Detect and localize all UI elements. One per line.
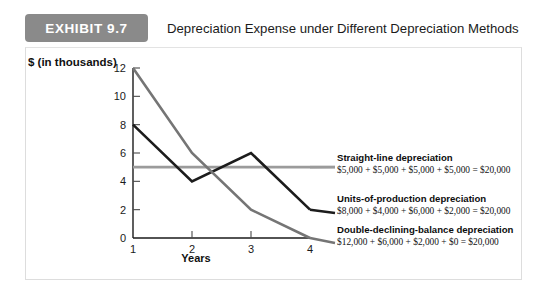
exhibit-badge: EXHIBIT 9.7 bbox=[25, 14, 148, 42]
legend-formula-double-declining-balance: $12,000 + $6,000 + $2,000 + $0 = $20,000 bbox=[337, 236, 537, 248]
x-tick-label: 1 bbox=[130, 243, 136, 255]
legend-item-straight-line: Straight-line depreciation $5,000 + $5,0… bbox=[337, 152, 537, 176]
y-tick-label: 2 bbox=[120, 204, 126, 216]
legend-item-units-of-production: Units-of-production depreciation $8,000 … bbox=[337, 193, 537, 217]
series-line bbox=[133, 68, 310, 238]
y-axis: 024681012 bbox=[114, 62, 140, 244]
legend-title-double-declining-balance: Double-declining-balance depreciation bbox=[337, 224, 537, 236]
exhibit-title: Depreciation Expense under Different Dep… bbox=[167, 21, 519, 36]
legend-formula-straight-line: $5,000 + $5,000 + $5,000 + $5,000 = $20,… bbox=[337, 164, 537, 176]
x-axis-title: Years bbox=[181, 252, 210, 264]
x-tick-label: 4 bbox=[307, 243, 313, 255]
data-series-group bbox=[133, 68, 310, 238]
y-tick-label: 10 bbox=[114, 90, 126, 102]
x-tick-label: 3 bbox=[248, 243, 254, 255]
x-axis: 1234 bbox=[130, 231, 313, 255]
y-tick-label: 8 bbox=[120, 119, 126, 131]
chart-legend: Straight-line depreciation $5,000 + $5,0… bbox=[337, 152, 537, 248]
y-tick-label: 6 bbox=[120, 147, 126, 159]
legend-formula-units-of-production: $8,000 + $4,000 + $6,000 + $2,000 = $20,… bbox=[337, 205, 537, 217]
y-tick-label: 4 bbox=[120, 175, 126, 187]
exhibit-header: EXHIBIT 9.7 Depreciation Expense under D… bbox=[25, 13, 522, 43]
legend-title-units-of-production: Units-of-production depreciation bbox=[337, 193, 537, 205]
legend-item-double-declining-balance: Double-declining-balance depreciation $1… bbox=[337, 224, 537, 248]
legend-connector-line bbox=[310, 210, 335, 213]
legend-title-straight-line: Straight-line depreciation bbox=[337, 152, 537, 164]
exhibit-badge-label: EXHIBIT 9.7 bbox=[45, 21, 127, 36]
legend-connector-group bbox=[310, 167, 335, 243]
legend-connector-line bbox=[310, 238, 335, 243]
y-tick-label: 0 bbox=[120, 232, 126, 244]
y-tick-label: 12 bbox=[114, 62, 126, 74]
